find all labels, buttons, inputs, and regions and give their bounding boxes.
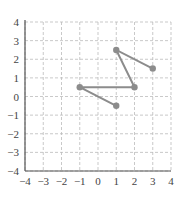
data-point-marker [113, 103, 119, 109]
x-tick-label: 4 [168, 175, 174, 187]
y-tick-label: 4 [14, 16, 20, 28]
y-tick-label: −1 [7, 109, 19, 121]
data-point-marker [131, 84, 137, 90]
x-tick-label: −3 [37, 175, 49, 187]
y-tick-label: −3 [7, 146, 19, 158]
data-point-marker [113, 47, 119, 53]
y-tick-label: 2 [14, 53, 20, 65]
x-tick-label: 3 [150, 175, 156, 187]
x-tick-label: −1 [74, 175, 86, 187]
data-point-marker [77, 84, 83, 90]
y-tick-label: −2 [7, 128, 19, 140]
x-tick-label: −2 [56, 175, 68, 187]
y-tick-label: 1 [14, 72, 20, 84]
x-tick-label: 1 [114, 175, 120, 187]
line-chart: −4−3−2−101234−4−3−2−101234 [0, 0, 183, 199]
y-tick-label: 3 [14, 35, 20, 47]
y-tick-label: −4 [7, 165, 19, 177]
x-tick-label: 2 [132, 175, 138, 187]
y-tick-label: 0 [14, 91, 20, 103]
data-point-marker [150, 65, 156, 71]
x-tick-label: −4 [19, 175, 31, 187]
x-tick-label: 0 [95, 175, 101, 187]
